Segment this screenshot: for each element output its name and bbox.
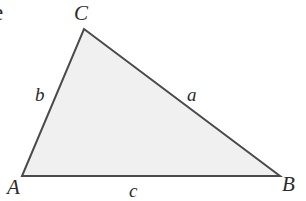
- side-label-b: b: [35, 85, 45, 104]
- side-label-a: a: [187, 85, 197, 104]
- side-label-c: c: [129, 181, 137, 200]
- triangle-shape: [22, 29, 280, 176]
- vertex-label-c: C: [74, 3, 88, 24]
- stray-glyph: e: [0, 1, 3, 24]
- triangle-svg: [0, 0, 306, 201]
- vertex-label-b: B: [282, 174, 295, 195]
- triangle-figure: e C A B a b c: [0, 0, 306, 201]
- vertex-label-a: A: [7, 177, 20, 198]
